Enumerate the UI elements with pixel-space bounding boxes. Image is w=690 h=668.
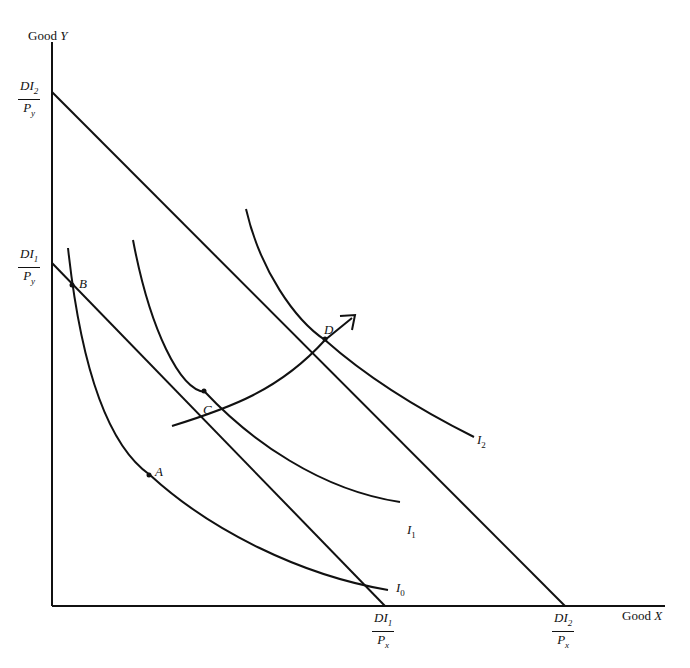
curve-i1-label: I1 xyxy=(407,522,416,540)
curve-i0-label: I0 xyxy=(396,580,405,598)
y-axis-label: Good Y xyxy=(28,28,67,44)
point-a-dot xyxy=(147,473,152,478)
budget-line-1 xyxy=(52,263,385,606)
budget-line-2 xyxy=(52,92,565,606)
y-intercept-1: DI1 Py xyxy=(18,246,40,288)
indifference-curve-i1 xyxy=(133,240,400,502)
indifference-curve-i0 xyxy=(68,248,388,590)
point-b-label: B xyxy=(79,276,87,292)
indifference-curve-i2 xyxy=(246,209,474,437)
x-axis-label: Good X xyxy=(622,608,662,624)
point-b-dot xyxy=(70,283,75,288)
indifference-diagram xyxy=(0,0,690,668)
point-c-dot xyxy=(202,389,207,394)
x-intercept-2: DI2 Px xyxy=(552,610,574,652)
x-intercept-1: DI1 Px xyxy=(372,610,394,652)
point-a-label: A xyxy=(155,464,163,480)
curve-i2-label: I2 xyxy=(477,432,486,450)
point-c-label: C xyxy=(203,402,212,418)
point-d-label: D xyxy=(324,322,333,338)
y-intercept-2: DI2 Py xyxy=(18,78,40,120)
